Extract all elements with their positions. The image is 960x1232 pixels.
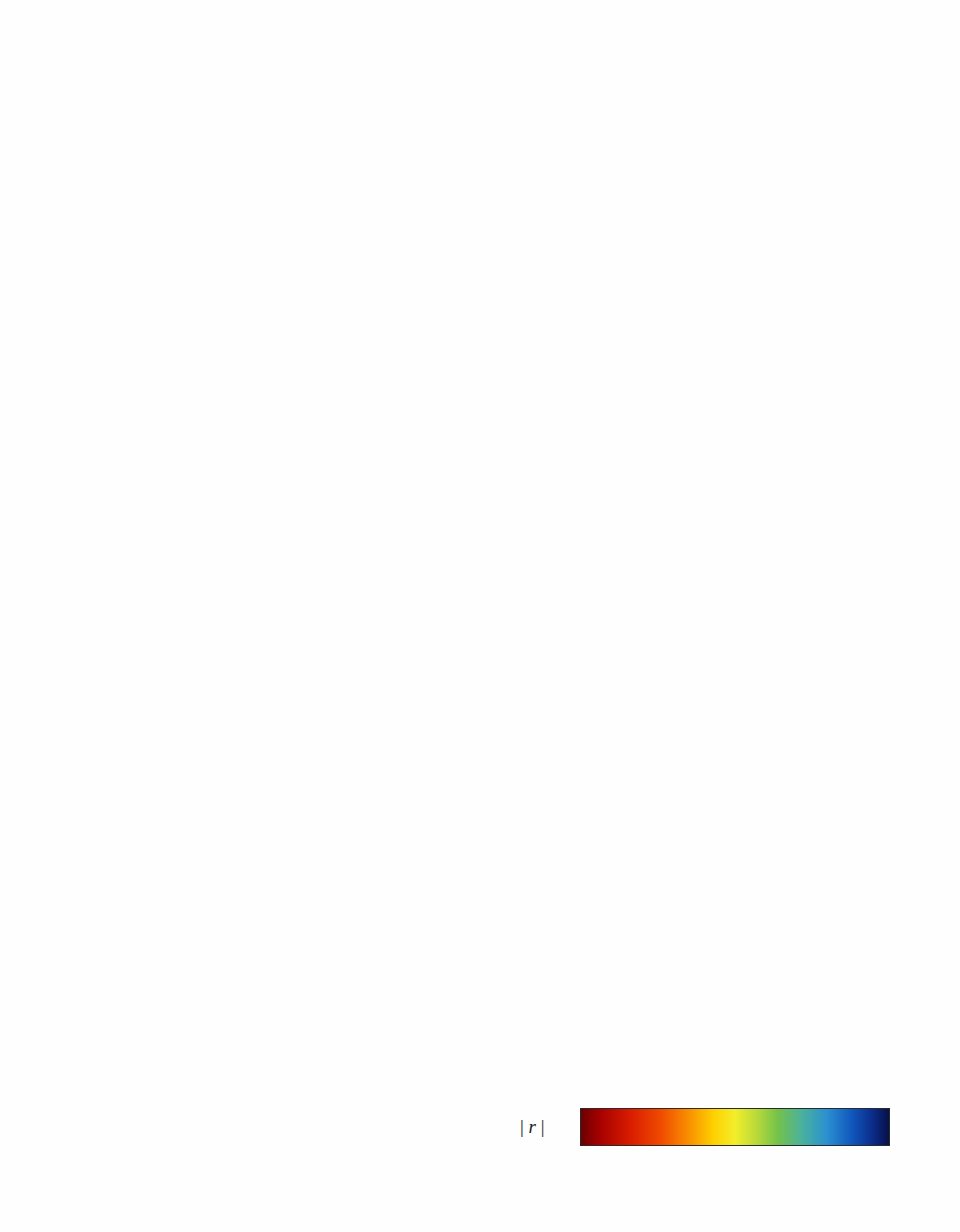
colorbar-title: | r | [520, 1116, 545, 1138]
figure-container: | r | [0, 0, 960, 1232]
vip-size-legend [95, 1105, 485, 1185]
colorbar-gradient [580, 1108, 890, 1146]
correlation-color-legend: | r | [520, 1102, 940, 1187]
figure-caption [0, 1186, 960, 1211]
